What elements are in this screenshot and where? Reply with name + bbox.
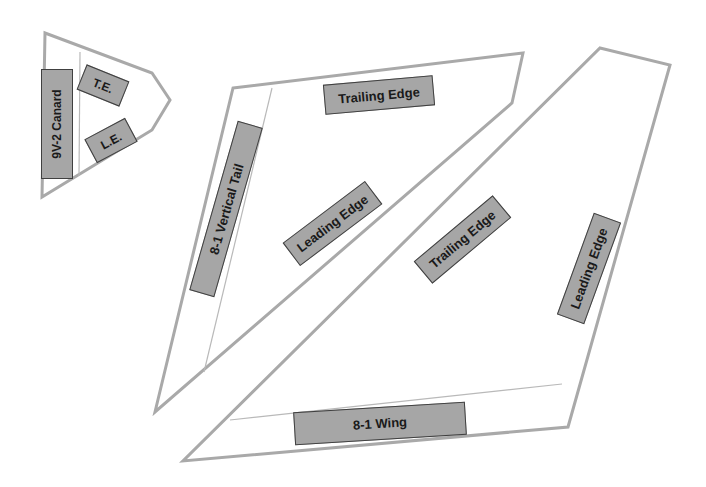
canard-name-label: 9V-2 Canard (41, 69, 73, 179)
